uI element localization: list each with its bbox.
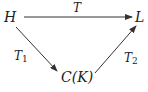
edge-label-T2-main: T [124,51,132,65]
edge-label-T1-sub: 1 [22,54,28,64]
node-CK: C(K) [61,70,93,84]
edge-label-T1-main: T [14,49,22,63]
edge-label-T: T [73,2,81,14]
edge-label-T2-sub: 2 [132,56,138,66]
edge-label-T2: T2 [124,52,138,66]
node-H: H [4,10,16,24]
node-L: L [135,10,144,24]
arrow-T1 [16,27,57,71]
edge-label-T1: T1 [14,50,28,64]
